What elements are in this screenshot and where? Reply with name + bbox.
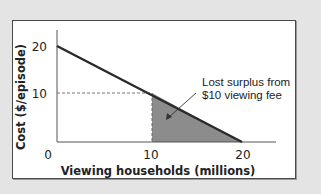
y-tick-20: 20 xyxy=(32,40,47,54)
chart-svg: 20 10 0 10 20 Cost ($/episode) Viewing h… xyxy=(0,0,321,194)
x-tick-10: 10 xyxy=(143,148,158,162)
x-tick-20: 20 xyxy=(235,148,250,162)
y-axis-title: Cost ($/episode) xyxy=(14,44,28,150)
x-tick-0: 0 xyxy=(44,148,52,162)
annotation-line-2: $10 viewing fee xyxy=(202,89,282,101)
annotation-line-1: Lost surplus from xyxy=(202,76,290,88)
y-tick-10: 10 xyxy=(32,87,47,101)
x-axis-title: Viewing households (millions) xyxy=(61,164,256,178)
